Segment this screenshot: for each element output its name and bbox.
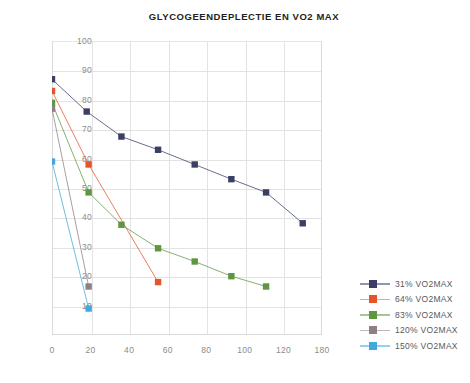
data-point-marker — [300, 220, 306, 226]
legend-item[interactable]: 31% VO2MAX — [360, 276, 458, 292]
legend-item-label: 120% VO2MAX — [395, 325, 458, 335]
data-point-marker — [228, 176, 234, 182]
data-point-marker — [118, 222, 124, 228]
legend-marker — [369, 311, 377, 319]
data-point-marker — [228, 273, 234, 279]
data-point-marker — [118, 133, 124, 139]
data-point-marker — [52, 88, 55, 94]
data-point-marker — [155, 245, 161, 251]
data-point-marker — [52, 76, 55, 82]
chart-container: GLYCOGEENDEPLECTIE EN VO2 MAX 1020304050… — [0, 0, 470, 383]
x-axis-tick-label: 180 — [302, 345, 342, 355]
legend-swatch-icon — [360, 278, 390, 289]
legend-item-label: 150% VO2MAX — [395, 341, 458, 351]
data-point-marker — [85, 305, 91, 311]
legend-item[interactable]: 120% VO2MAX — [360, 323, 458, 339]
x-axis-tick-label: 120 — [263, 345, 303, 355]
data-point-marker — [52, 100, 55, 106]
data-point-marker — [85, 161, 91, 167]
data-point-marker — [52, 158, 55, 164]
data-series — [52, 76, 306, 226]
chart-legend: 31% VO2MAX64% VO2MAX83% VO2MAX120% VO2MA… — [360, 276, 458, 354]
data-point-marker — [155, 279, 161, 285]
x-axis-tick-label: 40 — [109, 345, 149, 355]
legend-marker — [369, 326, 377, 334]
legend-item-label: 83% VO2MAX — [395, 310, 453, 320]
data-point-marker — [85, 189, 91, 195]
data-point-marker — [263, 283, 269, 289]
legend-item-label: 64% VO2MAX — [395, 294, 453, 304]
legend-item[interactable]: 64% VO2MAX — [360, 292, 458, 308]
legend-marker — [369, 295, 377, 303]
data-point-marker — [85, 283, 91, 289]
data-point-marker — [192, 161, 198, 167]
series-line — [52, 109, 89, 287]
data-series — [52, 105, 92, 289]
legend-item[interactable]: 150% VO2MAX — [360, 338, 458, 354]
legend-marker — [369, 342, 377, 350]
series-line — [52, 103, 266, 287]
x-axis-tick-label: 60 — [148, 345, 188, 355]
data-point-marker — [84, 108, 90, 114]
data-series-layer — [52, 41, 322, 335]
legend-item[interactable]: 83% VO2MAX — [360, 307, 458, 323]
series-line — [52, 79, 303, 223]
series-line — [52, 162, 89, 309]
x-axis-tick-label: 80 — [186, 345, 226, 355]
data-point-marker — [52, 105, 55, 111]
legend-swatch-icon — [360, 294, 390, 305]
data-point-marker — [192, 258, 198, 264]
legend-marker — [369, 280, 377, 288]
x-axis-tick-label: 0 — [32, 345, 72, 355]
data-point-marker — [263, 189, 269, 195]
legend-swatch-icon — [360, 309, 390, 320]
x-axis-tick-label: 20 — [71, 345, 111, 355]
data-series — [52, 100, 269, 290]
legend-item-label: 31% VO2MAX — [395, 279, 453, 289]
legend-swatch-icon — [360, 325, 390, 336]
x-axis-tick-label: 100 — [225, 345, 265, 355]
chart-title: GLYCOGEENDEPLECTIE EN VO2 MAX — [0, 11, 470, 22]
legend-swatch-icon — [360, 340, 390, 351]
data-point-marker — [155, 147, 161, 153]
